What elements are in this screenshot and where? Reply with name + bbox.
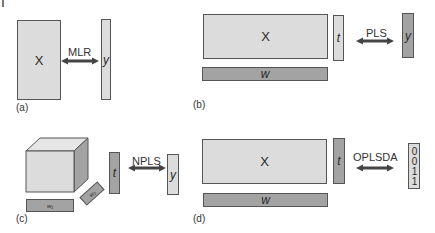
y-vector: y	[402, 13, 414, 58]
t-scores: t	[333, 138, 345, 184]
y-vector: y	[167, 154, 179, 195]
x-block: X	[202, 139, 327, 184]
panel-label: (c)	[16, 213, 28, 224]
panel-label: (a)	[16, 102, 28, 113]
double-arrow-icon	[356, 37, 394, 45]
double-arrow-icon	[61, 57, 99, 65]
data-cube-icon	[25, 137, 90, 199]
method-label: OPLSDA	[353, 151, 398, 163]
y-vector: y	[101, 19, 111, 100]
t-scores: t	[109, 152, 120, 194]
double-arrow-icon	[356, 164, 394, 172]
w-weights: w	[202, 67, 328, 81]
class-label-vector: 0011	[408, 143, 420, 189]
t-scores: t	[333, 15, 344, 61]
x-block: X	[203, 14, 328, 59]
w1-weights: w₁	[26, 199, 74, 212]
x-block: X	[17, 20, 61, 100]
panel-label: (b)	[193, 99, 205, 110]
w-weights: w	[203, 193, 328, 207]
double-arrow-icon	[128, 164, 166, 172]
corner-mark: I	[1, 0, 5, 10]
panel-label: (d)	[193, 213, 205, 224]
